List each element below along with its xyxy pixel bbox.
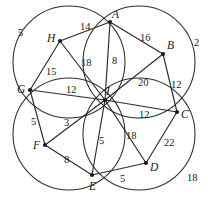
edge-A-B <box>110 22 163 54</box>
edge-weight-i-a: 8 <box>112 56 117 67</box>
edge-weight-i-h: 18 <box>81 58 92 69</box>
edge-I-F <box>45 100 105 145</box>
vertex-label-b: B <box>167 40 174 52</box>
edge-weight-f-g: 5 <box>31 117 36 128</box>
vertex-label-h: H <box>47 33 55 45</box>
vertex-label-f: F <box>33 140 40 152</box>
vertex-dot-i <box>103 98 107 102</box>
circle-top-right <box>83 6 195 118</box>
edge-weight-i-b: 20 <box>138 78 149 89</box>
vertex-label-d: D <box>150 162 158 174</box>
edge-weight-c-d: 22 <box>164 138 175 149</box>
edge-weight-i-c: 12 <box>139 110 150 121</box>
weighted-graph-figure: ABCDEFGHI 14161222585158201218531218 521… <box>0 0 208 204</box>
edge-weight-b-c: 12 <box>171 80 182 91</box>
edge-weight-e-f: 8 <box>64 155 69 166</box>
edge-weight-a-b: 16 <box>140 33 151 44</box>
edge-weight-i-g: 12 <box>66 85 77 96</box>
vertex-label-g: G <box>17 84 25 96</box>
vertex-dot-e <box>90 173 94 177</box>
edges-group <box>30 22 177 175</box>
vertex-dot-d <box>144 161 148 165</box>
vertex-label-e: E <box>89 181 96 193</box>
edge-weight-g-h: 15 <box>46 67 57 78</box>
outer-weight-label-2: 18 <box>187 173 198 184</box>
vertex-dot-c <box>175 110 179 114</box>
vertex-label-a: A <box>112 9 119 21</box>
outer-weight-label-0: 5 <box>18 28 23 39</box>
edge-D-E <box>92 163 146 175</box>
edge-weight-d-e: 5 <box>120 174 125 185</box>
edge-weight-i-e: 5 <box>99 136 104 147</box>
edge-weight-i-d: 18 <box>126 131 137 142</box>
vertex-label-i: I <box>106 86 110 98</box>
outer-weight-label-1: 2 <box>194 38 199 49</box>
vertex-label-c: C <box>181 109 189 121</box>
edge-weight-h-a: 14 <box>80 22 91 33</box>
vertex-dot-f <box>43 143 47 147</box>
vertex-dot-b <box>161 52 165 56</box>
vertex-dot-h <box>58 39 62 43</box>
figure-canvas <box>0 0 208 204</box>
vertex-dot-g <box>28 88 32 92</box>
vertex-dot-a <box>108 20 112 24</box>
edge-weight-i-f: 3 <box>64 118 69 129</box>
